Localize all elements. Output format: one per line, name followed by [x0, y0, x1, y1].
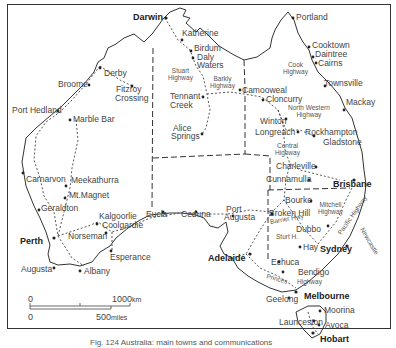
town-label: Dubbo — [296, 225, 321, 234]
town-label: Launceston — [279, 318, 323, 327]
town-label: Longreach — [255, 128, 295, 137]
town-label: Bendigo — [298, 268, 329, 277]
highway-label-central: CentralHighway — [275, 143, 300, 157]
highway-label-sturt: Sturt H. — [276, 234, 298, 241]
city-label-hobart: Hobart — [320, 335, 349, 344]
town-label: Meekathurra — [71, 176, 119, 185]
town-label: Augusta — [21, 265, 52, 274]
town-label: Marble Bar — [73, 115, 115, 124]
highway-label-stuart: StuartHighway — [168, 68, 193, 82]
figure-caption: Fig. 124 Australia: main towns and commu… — [90, 338, 272, 347]
scale-mi-value: 500miles — [96, 312, 127, 322]
town-label: Katherine — [182, 29, 218, 38]
town-label: Gladstone — [323, 138, 362, 147]
town-label: Townsville — [324, 79, 363, 88]
town-label: Avoca — [325, 321, 348, 330]
highway-label-princes-2: Highway — [297, 279, 322, 286]
town-label: Echuca — [271, 258, 299, 267]
town-label: Ceduna — [181, 210, 211, 219]
town-label: Cloncurry — [266, 95, 302, 104]
highway-label-mitchell: MitchellHighway — [318, 202, 343, 216]
city-label-sydney: Sydney — [320, 245, 352, 254]
town-label: Hay — [303, 243, 318, 252]
town-label: Crossing — [115, 94, 149, 103]
city-label-darwin: Darwin — [133, 13, 163, 22]
town-label: Mt.Magnet — [69, 191, 109, 200]
scale-mi-zero: 0 — [28, 312, 33, 322]
town-label: Norseman — [68, 232, 107, 241]
town-label: Augusta — [224, 213, 255, 222]
town-label: Geelong — [266, 295, 298, 304]
town-label: Cairns — [318, 59, 343, 68]
town-label: Moorina — [324, 306, 355, 315]
town-label: Springs — [171, 132, 200, 141]
town-label: Derby — [104, 69, 127, 78]
town-label: Rockhampton — [305, 128, 357, 137]
town-label: Eucla — [146, 210, 167, 219]
town-label: Geraldton — [41, 204, 78, 213]
town-label: Broome — [58, 80, 88, 89]
city-label-adelaide: Adelaide — [208, 254, 246, 263]
town-label: Bourke — [285, 196, 312, 205]
highway-label-barkly: BarklyHighway — [210, 76, 235, 90]
scale-km-value: 1000km — [112, 294, 141, 304]
highway-label-cook: CookHighway — [283, 62, 308, 76]
highway-label-north-western: North WesternHighway — [288, 105, 330, 119]
town-label: Carnarvon — [26, 175, 66, 184]
town-label: Waters — [197, 61, 224, 70]
town-label: Winton — [260, 117, 286, 126]
town-label: Port Hedland — [12, 106, 62, 115]
town-label: Mackay — [346, 98, 375, 107]
city-label-perth: Perth — [20, 237, 43, 246]
scale-km-zero: 0 — [28, 294, 33, 304]
town-label: Creek — [170, 101, 193, 110]
town-label: Charleville — [276, 162, 316, 171]
town-label: Portland — [296, 13, 328, 22]
town-label: Coolgardie — [102, 221, 143, 230]
town-label: Esperance — [110, 253, 151, 262]
town-label: Cunnamulla — [266, 175, 311, 184]
city-label-melbourne: Melbourne — [304, 292, 350, 301]
town-label: Albany — [84, 267, 110, 276]
city-label-brisbane: Brisbane — [333, 180, 372, 189]
